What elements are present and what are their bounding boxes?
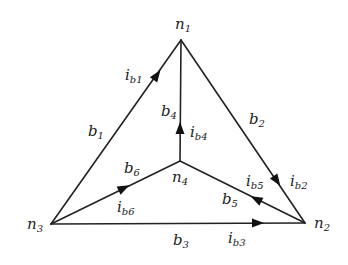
branch-b1: [51, 40, 181, 224]
branch-label-b1: b1: [88, 122, 104, 141]
arrow-ib3-icon: [252, 219, 264, 228]
branch-b4: [180, 40, 181, 161]
current-label-ib4: ib4: [190, 123, 208, 142]
branch-label-b6: b6: [124, 159, 141, 178]
node-label-n4: n4: [172, 168, 188, 187]
current-label-ib5: ib5: [246, 172, 264, 191]
current-label-ib1: ib1: [125, 66, 143, 85]
node-label-n1: n1: [175, 15, 191, 34]
branch-label-b3: b3: [173, 231, 189, 250]
branch-label-b4: b4: [161, 102, 177, 121]
arrow-ib4-icon: [176, 122, 185, 134]
arrow-ib6-icon: [117, 181, 132, 194]
branch-label-b5: b5: [222, 190, 238, 209]
branch-b3: [51, 223, 305, 224]
branch-label-b2: b2: [249, 110, 265, 129]
current-label-ib2: ib2: [290, 172, 308, 191]
node-label-n2: n2: [314, 214, 330, 233]
node-label-n3: n3: [27, 215, 43, 234]
current-label-ib3: ib3: [228, 229, 246, 248]
circuit-graph-diagram: n1 n2 n3 n4 b1 b2 b3 b4 b5 b6 ib1 ib2 ib…: [0, 0, 348, 265]
current-label-ib6: ib6: [117, 198, 135, 217]
branch-b5: [180, 161, 305, 223]
branch-b6: [51, 161, 180, 224]
arrow-ib5-icon: [249, 192, 264, 205]
